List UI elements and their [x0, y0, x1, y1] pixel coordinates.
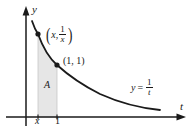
equals-sign-glyph: =	[137, 83, 143, 93]
fraction-denominator: t	[147, 88, 152, 97]
fraction-one-over-t: 1 t	[146, 78, 153, 97]
fraction-one-over-x: 1 x	[59, 25, 66, 44]
t-axis-label: t	[180, 101, 183, 112]
fraction-numerator: 1	[59, 25, 66, 34]
point-comma-glyph: ,	[56, 30, 59, 40]
one-tick-label: 1	[55, 116, 60, 126]
curve-equation-label: y = 1 t	[131, 78, 154, 97]
close-paren-glyph: )	[68, 27, 72, 42]
equation-y-variable: y	[131, 83, 135, 93]
point-marker-one-one	[54, 62, 59, 67]
point-x-inverse-label: ( x , 1 x )	[45, 25, 73, 44]
figure-container: y t x 1 A (1, 1) ( x , 1 x ) y = 1 t	[0, 0, 195, 132]
x-tick-label: x	[35, 116, 39, 126]
shaded-area-region	[38, 34, 57, 117]
fraction-numerator: 1	[146, 78, 153, 87]
y-axis-label: y	[32, 4, 37, 15]
area-region-label: A	[44, 80, 50, 90]
point-one-one-label: (1, 1)	[63, 56, 85, 66]
plot-canvas	[0, 0, 195, 132]
open-paren-glyph: (	[46, 27, 50, 42]
point-marker-x-curve	[35, 31, 40, 36]
y-axis-arrowhead	[23, 6, 30, 16]
t-axis-arrowhead	[177, 114, 187, 121]
fraction-denominator: x	[60, 35, 66, 44]
